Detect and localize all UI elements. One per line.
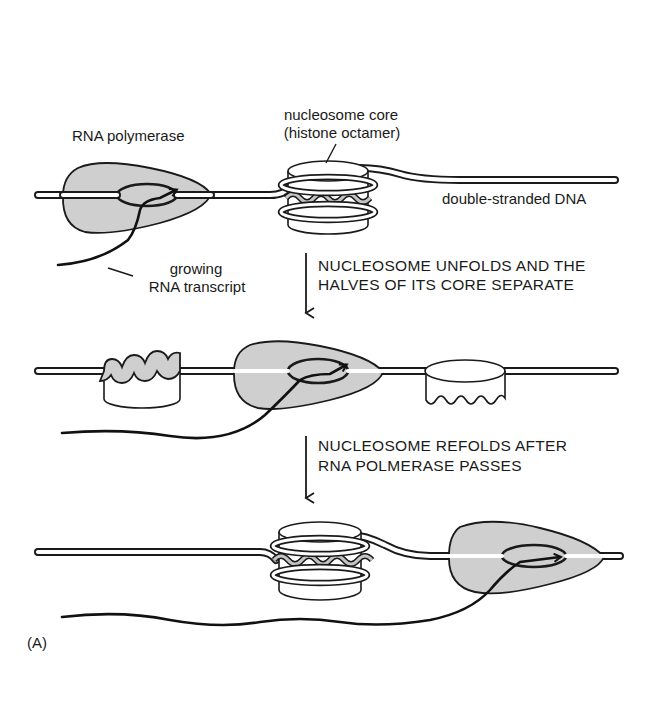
dna-label: double-stranded DNA: [442, 190, 586, 207]
polymerase-label: RNA polymerase: [72, 127, 185, 144]
rna-label-line1: growing: [170, 260, 223, 277]
nucleosome-core: [273, 522, 372, 600]
nucleosome-label-line2: (histone octamer): [284, 124, 401, 141]
panel-label: (A): [27, 634, 47, 651]
half-core-right: [425, 360, 505, 404]
nucleosome-label-line1: nucleosome core: [284, 106, 398, 123]
step-2-caption-line1: NUCLEOSOME REFOLDS AFTER: [318, 437, 567, 454]
step-2: NUCLEOSOME REFOLDS AFTER RNA POLMERASE P…: [306, 436, 567, 498]
rna-polymerase: [58, 163, 211, 265]
stage-2: [38, 341, 615, 438]
nucleosome-transcription-diagram: RNA polymerase nucleosome core (histone …: [0, 0, 656, 701]
rna-leader-line: [108, 268, 133, 276]
step-1-caption-line1: NUCLEOSOME UNFOLDS AND THE: [318, 257, 586, 274]
step-1: NUCLEOSOME UNFOLDS AND THE HALVES OF ITS…: [306, 253, 586, 313]
stage-3: [38, 522, 620, 625]
nucleosome-core: [281, 144, 375, 234]
half-core-left: [100, 351, 180, 408]
rna-label-line2: RNA transcript: [149, 278, 247, 295]
step-2-caption-line2: RNA POLMERASE PASSES: [318, 457, 522, 474]
step-1-caption-line2: HALVES OF ITS CORE SEPARATE: [318, 276, 574, 293]
